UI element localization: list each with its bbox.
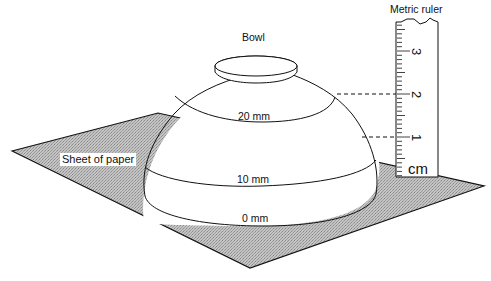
bowl-body — [143, 78, 379, 226]
ruler-tick-1: 1 — [410, 134, 423, 141]
ruler-unit-label: cm — [408, 161, 428, 176]
contour-label-0mm: 0 mm — [242, 213, 268, 224]
diagram-canvas: 1 2 3 cm Metric ruler Bowl Sheet of pape… — [0, 0, 491, 281]
paper-label: Sheet of paper — [60, 153, 136, 166]
ruler-title-label: Metric ruler — [390, 4, 443, 15]
contour-label-20mm: 20 mm — [238, 111, 270, 122]
bowl-label: Bowl — [242, 32, 265, 43]
ruler-tick-2: 2 — [410, 91, 423, 98]
contour-label-10mm: 10 mm — [237, 174, 269, 185]
ruler-tick-3: 3 — [410, 48, 423, 55]
